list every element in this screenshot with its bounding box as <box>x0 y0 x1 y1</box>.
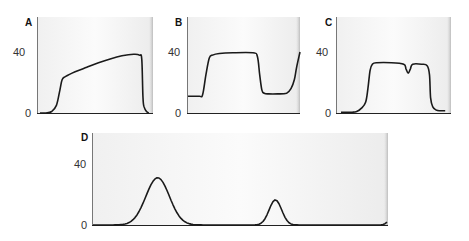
panel-shadow <box>149 17 153 113</box>
panel-b: B 40 0 <box>168 17 300 119</box>
plot-area-c <box>336 17 451 113</box>
y-tick-40: 40 <box>316 46 328 58</box>
panel-d: D 40 0 <box>74 132 388 231</box>
y-tick-40: 40 <box>74 158 86 170</box>
plot-area-a <box>37 17 153 113</box>
y-tick-0: 0 <box>325 107 331 119</box>
panel-label: D <box>81 132 88 143</box>
figure: A 40 0 B 40 0 C 40 0 D 40 0 <box>0 0 469 241</box>
y-tick-0: 0 <box>81 219 87 231</box>
panel-shadow <box>384 133 388 225</box>
panel-label: A <box>25 17 32 28</box>
panel-c: C 40 0 <box>316 17 451 119</box>
y-tick-40: 40 <box>13 46 25 58</box>
panel-label: C <box>325 17 332 28</box>
plot-area-d <box>92 133 388 225</box>
y-tick-0: 0 <box>25 107 31 119</box>
y-tick-40: 40 <box>168 46 180 58</box>
panel-a: A 40 0 <box>13 17 153 119</box>
panel-shadow <box>447 17 451 113</box>
plot-area-b <box>187 17 300 113</box>
y-tick-0: 0 <box>175 107 181 119</box>
panel-label: B <box>175 17 182 28</box>
